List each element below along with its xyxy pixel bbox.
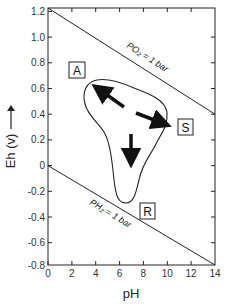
y-tick-label: -0.6	[28, 237, 46, 248]
label-r-text: R	[143, 205, 152, 219]
x-tick-labels: 0 2 4 6 8 10 12 14	[45, 268, 221, 279]
x-tick-label: 2	[69, 268, 75, 279]
y-tick-label: -0.8	[28, 260, 46, 271]
x-tick-label: 14	[209, 268, 221, 279]
ph2-line	[48, 166, 215, 265]
label-box-r: R	[140, 203, 155, 219]
y-tick-label: 0	[39, 160, 45, 171]
stability-field-outline	[84, 79, 167, 203]
po2-line	[48, 8, 215, 114]
label-box-a: A	[69, 62, 85, 78]
label-s-text: S	[181, 121, 189, 135]
ph2-line-label: PH₂ = 1 bar	[88, 197, 134, 230]
y-tick-label: 0.2	[31, 134, 45, 145]
y-tick-label: 1.2	[31, 6, 45, 17]
y-tick-label: -0.4	[28, 212, 46, 223]
x-tick-label: 0	[45, 268, 51, 279]
x-axis-title: pH	[123, 286, 140, 301]
y-tick-labels: 1.2 1.0 0.8 0.6 0.4 0.2 0 -0.2 -0.4 -0.6…	[28, 6, 46, 271]
label-a-text: A	[73, 64, 81, 78]
x-tick-label: 12	[186, 268, 198, 279]
y-tick-label: -0.2	[28, 186, 46, 197]
x-axis-ticks	[48, 8, 191, 265]
y-tick-label: 0.6	[31, 83, 45, 94]
y-tick-label: 1.0	[31, 32, 45, 43]
eh-ph-diagram: 0 2 4 6 8 10 12 14 1.2 1.0 0.8 0.6 0.4 0…	[0, 0, 226, 306]
y-axis-title: Eh (v)	[3, 105, 18, 168]
label-box-s: S	[178, 119, 193, 135]
x-tick-label: 10	[162, 268, 174, 279]
x-tick-label: 6	[117, 268, 123, 279]
arrow-to-a-icon	[100, 90, 124, 107]
x-tick-label: 4	[93, 268, 99, 279]
y-tick-label: 0.4	[31, 109, 45, 120]
po2-line-label: PO₂ = 1 bar	[125, 40, 171, 74]
y-tick-label: 0.8	[31, 57, 45, 68]
y-axis-arrowhead-icon	[7, 105, 15, 111]
arrow-to-s-icon	[136, 113, 162, 123]
y-axis-title-text: Eh (v)	[3, 134, 18, 169]
x-tick-label: 8	[141, 268, 147, 279]
